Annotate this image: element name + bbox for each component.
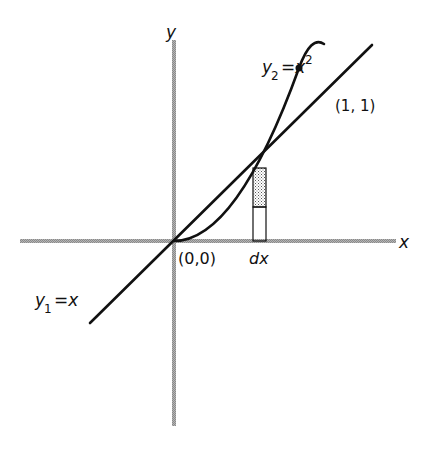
svg-text:1: 1 bbox=[44, 302, 52, 316]
svg-text:2: 2 bbox=[271, 69, 279, 83]
svg-text:2: 2 bbox=[305, 53, 313, 67]
label-y2-equals-x-squared: y 2 =x 2 bbox=[261, 53, 313, 83]
line-y1-equals-x bbox=[90, 45, 372, 323]
area-between-curves-diagram: y x (0,0) (1, 1) dx y 2 =x 2 y 1 =x bbox=[0, 0, 426, 457]
svg-text:=x: =x bbox=[281, 57, 306, 77]
y-axis bbox=[172, 40, 176, 426]
label-y1-equals-x: y 1 =x bbox=[34, 290, 79, 316]
x-axis bbox=[20, 239, 396, 243]
svg-text:=x: =x bbox=[54, 290, 79, 310]
intersection-label: (1, 1) bbox=[335, 97, 375, 115]
origin-label: (0,0) bbox=[178, 249, 216, 268]
y-axis-label: y bbox=[165, 22, 177, 42]
strip-unshaded-region bbox=[253, 207, 266, 241]
strip-shaded-region bbox=[253, 168, 266, 207]
x-axis-label: x bbox=[398, 232, 410, 252]
dx-label: dx bbox=[249, 249, 269, 268]
dx-strip bbox=[253, 168, 266, 241]
